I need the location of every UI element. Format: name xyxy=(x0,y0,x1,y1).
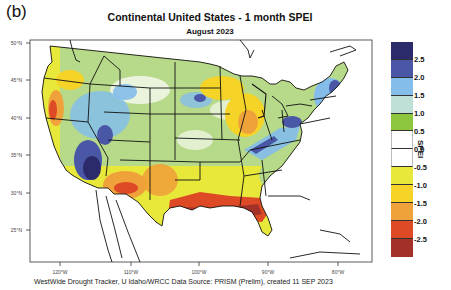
y-axis-ticks xyxy=(26,43,30,230)
colorbar-segment xyxy=(391,167,413,185)
x-label-120w: 120°W xyxy=(45,269,75,275)
x-label-100w: 100°W xyxy=(184,269,214,275)
colorbar-segment xyxy=(391,42,413,60)
colorbar-segment xyxy=(391,96,413,114)
y-label-45n: 45°N xyxy=(0,77,22,83)
y-label-35n: 35°N xyxy=(0,152,22,158)
colorbar-tick: -2.0 xyxy=(414,217,427,226)
spei-map xyxy=(0,0,451,290)
y-label-30n: 30°N xyxy=(0,190,22,196)
data-credit: WestWide Drought Tracker, U Idaho/WRCC D… xyxy=(34,278,333,285)
y-label-25n: 25°N xyxy=(0,227,22,233)
colorbar-tick: -0.5 xyxy=(414,163,427,172)
colorbar-segment xyxy=(391,60,413,78)
x-axis-ticks xyxy=(60,262,338,266)
colorbar xyxy=(391,42,413,257)
colorbar-segment xyxy=(391,78,413,96)
colorbar-segment xyxy=(391,185,413,203)
colorbar-tick: -1.0 xyxy=(414,181,427,190)
x-label-110w: 110°W xyxy=(116,269,146,275)
colorbar-tick: 2.0 xyxy=(414,73,424,82)
colorbar-segment xyxy=(391,114,413,132)
x-label-90w: 90°W xyxy=(253,269,283,275)
y-label-50n: 50°N xyxy=(0,40,22,46)
colorbar-tick: 1.5 xyxy=(414,91,424,100)
colorbar-tick: -2.5 xyxy=(414,235,427,244)
x-label-80w: 80°W xyxy=(323,269,353,275)
colorbar-tick: 0.5 xyxy=(414,127,424,136)
colorbar-tick: 1.0 xyxy=(414,109,424,118)
colorbar-tick: -1.5 xyxy=(414,199,427,208)
y-label-40n: 40°N xyxy=(0,115,22,121)
colorbar-segment xyxy=(391,131,413,149)
colorbar-unit-label: SPEI xyxy=(416,140,425,158)
colorbar-segment xyxy=(391,239,413,257)
colorbar-segment xyxy=(391,203,413,221)
colorbar-segment xyxy=(391,149,413,167)
colorbar-tick: 2.5 xyxy=(414,55,424,64)
colorbar-segment xyxy=(391,221,413,239)
